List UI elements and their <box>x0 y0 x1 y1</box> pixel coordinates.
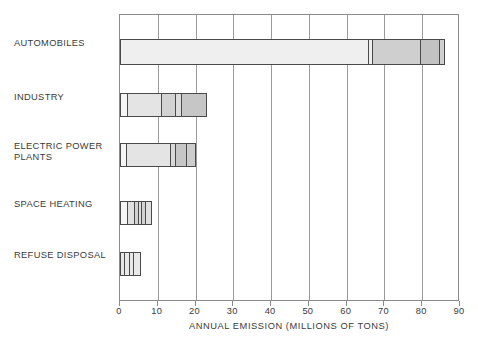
x-tick-label-0: 0 <box>116 306 121 316</box>
plot-area <box>119 14 459 301</box>
x-tick-label-20: 20 <box>189 306 200 316</box>
bar-segment <box>128 202 135 224</box>
x-tick-label-40: 40 <box>265 306 276 316</box>
x-tick-label-50: 50 <box>302 306 313 316</box>
bar-segment <box>134 253 139 275</box>
bar-segment <box>187 144 194 166</box>
bar-segment <box>121 202 128 224</box>
x-tick-label-90: 90 <box>454 306 465 316</box>
x-tick-label-70: 70 <box>378 306 389 316</box>
bar-segment <box>146 202 151 224</box>
bar-automobiles <box>120 39 445 65</box>
emissions-bar-chart: AUTOMOBILES INDUSTRY ELECTRIC POWER PLAN… <box>0 0 478 346</box>
bar-industry <box>120 93 207 117</box>
bar-space-heating <box>120 201 152 225</box>
bar-segment <box>440 40 444 64</box>
bar-refuse-disposal <box>120 252 141 276</box>
bar-segment <box>182 94 206 116</box>
bar-segment <box>162 94 177 116</box>
bar-segment <box>128 94 161 116</box>
bar-electric-power-plants <box>120 143 196 167</box>
x-tick-label-80: 80 <box>416 306 427 316</box>
bar-segment <box>176 144 187 166</box>
bar-segment <box>121 40 369 64</box>
x-tick-label-10: 10 <box>151 306 162 316</box>
category-label-refuse-disposal: REFUSE DISPOSAL <box>14 250 118 261</box>
x-tick-label-60: 60 <box>340 306 351 316</box>
category-label-space-heating: SPACE HEATING <box>14 199 118 210</box>
bar-segment <box>127 144 171 166</box>
x-tick-label-30: 30 <box>227 306 238 316</box>
category-label-industry: INDUSTRY <box>14 92 118 103</box>
x-axis-title: ANNUAL EMISSION (MILLIONS OF TONS) <box>119 321 459 331</box>
bar-segment <box>421 40 440 64</box>
bar-segment <box>121 94 128 116</box>
bar-segment <box>373 40 422 64</box>
category-label-electric-power-plants: ELECTRIC POWER PLANTS <box>14 141 118 163</box>
category-label-automobiles: AUTOMOBILES <box>14 38 118 49</box>
